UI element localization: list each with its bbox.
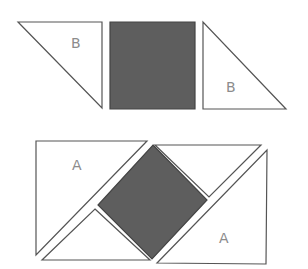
dark-square [110, 22, 195, 109]
label-b-left: B [71, 35, 81, 51]
top-row: B B [18, 22, 286, 109]
bottom-assembly: A A [36, 141, 267, 264]
triangle-b-left [18, 22, 102, 108]
quilt-diagram: B B A A [0, 0, 308, 269]
triangle-b-right [203, 22, 286, 109]
label-a-right: A [219, 230, 229, 246]
label-a-left: A [72, 157, 82, 173]
label-b-right: B [226, 79, 236, 95]
